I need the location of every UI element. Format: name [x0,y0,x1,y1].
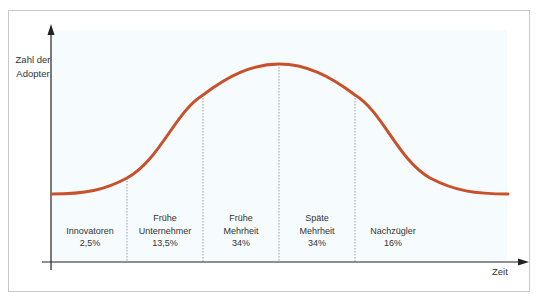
y-axis-label-line2: Adopter [13,67,53,81]
y-axis-label: Zahl der Adopter [13,53,53,81]
segment-label-line2: Mehrheit [203,225,279,238]
segment-percent: 16% [355,237,431,250]
segment-fruehe-unternehmer: Frühe Unternehmer 13,5% [127,212,203,250]
y-axis-arrow-icon [48,24,55,35]
x-axis-label: Zeit [492,266,508,277]
segment-label-line1 [355,212,431,225]
segment-label-line1: Späte [279,212,355,225]
segment-fruehe-mehrheit: Frühe Mehrheit 34% [203,212,279,250]
adoption-curve-chart [0,0,540,305]
segment-label-line1 [52,212,128,225]
segment-label-line2: Unternehmer [127,225,203,238]
segment-percent: 2,5% [52,237,128,250]
segment-nachzuegler: Nachzügler 16% [355,212,431,250]
segment-percent: 13,5% [127,237,203,250]
segment-percent: 34% [203,237,279,250]
segment-innovatoren: Innovatoren 2,5% [52,212,128,250]
y-axis-label-line1: Zahl der [13,53,53,67]
segment-label-line1: Frühe [203,212,279,225]
adoption-bell-curve [52,64,508,194]
x-axis-arrow-icon [518,259,529,266]
segment-spaete-mehrheit: Späte Mehrheit 34% [279,212,355,250]
segment-label-line1: Frühe [127,212,203,225]
segment-percent: 34% [279,237,355,250]
segment-label-line2: Nachzügler [355,225,431,238]
segment-label-line2: Mehrheit [279,225,355,238]
segment-label-line2: Innovatoren [52,225,128,238]
